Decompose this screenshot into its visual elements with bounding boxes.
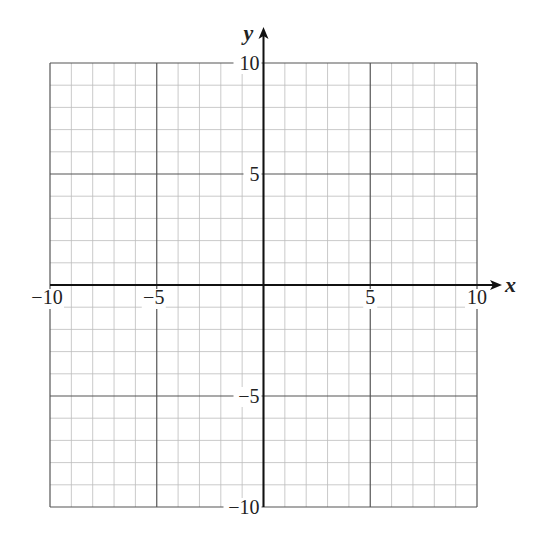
x-tick-label: −5	[143, 286, 164, 308]
x-tick-label: 5	[365, 286, 375, 308]
y-tick-label: 10	[240, 52, 260, 74]
x-axis-label: x	[504, 272, 516, 297]
y-tick-label: −10	[228, 496, 259, 518]
y-axis-label: y	[241, 20, 254, 45]
y-tick-label: −5	[238, 385, 259, 407]
axes: xy	[50, 20, 516, 507]
coordinate-grid: xy −10−5510105−5−10	[0, 0, 543, 540]
x-tick-label: 10	[467, 286, 487, 308]
x-tick-label: −10	[31, 286, 62, 308]
y-tick-label: 5	[250, 163, 260, 185]
